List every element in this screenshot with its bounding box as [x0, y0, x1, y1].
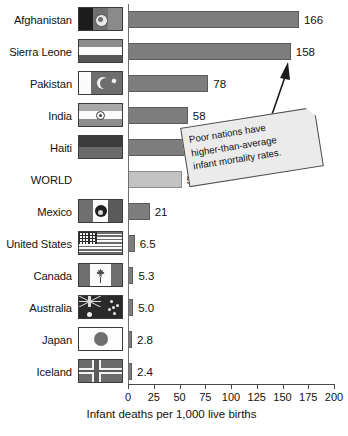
y-axis-line: [128, 4, 129, 384]
flag-cell: [78, 231, 125, 257]
bar-value-label: 2.4: [137, 356, 153, 388]
x-axis-title: Infant deaths per 1,000 live births: [0, 408, 343, 420]
flag-haiti-icon: [78, 135, 123, 159]
country-label: Japan: [0, 324, 72, 356]
bar-value-label: 5.0: [138, 292, 154, 324]
chart-row: Iceland2.4: [0, 356, 343, 388]
country-label: Pakistan: [0, 68, 72, 100]
chart-row: Sierra Leone158: [0, 36, 343, 68]
flag-afghanistan-icon: [78, 7, 123, 31]
country-label: Iceland: [0, 356, 72, 388]
country-label: United States: [0, 228, 72, 260]
bar: [128, 139, 187, 156]
country-label: Australia: [0, 292, 72, 324]
flag-cell: [78, 327, 125, 353]
chart-row: Australia5.0: [0, 292, 343, 324]
chart-row: Japan2.8: [0, 324, 343, 356]
flag-cell: [78, 263, 125, 289]
chart-row: United States6.5: [0, 228, 343, 260]
bar-value-label: 78: [213, 68, 226, 100]
country-label: Sierra Leone: [0, 36, 72, 68]
flag-mexico-icon: [78, 199, 123, 223]
country-label: Afghanistan: [0, 4, 72, 36]
flag-australia-icon: [78, 295, 123, 319]
chart-row: Afghanistan166: [0, 4, 343, 36]
country-label: India: [0, 100, 72, 132]
flag-canada-icon: [78, 263, 123, 287]
bar: [128, 203, 150, 220]
bar-value-label: 5.3: [138, 260, 154, 292]
flag-united-states-icon: [78, 231, 123, 255]
flag-iceland-icon: [78, 359, 123, 383]
country-label: Haiti: [0, 132, 72, 164]
flag-cell: [78, 199, 125, 225]
chart-row: Mexico21: [0, 196, 343, 228]
country-label: Mexico: [0, 196, 72, 228]
bar: [128, 11, 299, 28]
flag-cell: [78, 359, 125, 385]
bar: [128, 235, 135, 252]
bar-value-label: 6.5: [140, 228, 156, 260]
flag-cell: [78, 71, 125, 97]
flag-cell: [78, 295, 125, 321]
chart-row: Canada5.3: [0, 260, 343, 292]
flag-sierra-leone-icon: [78, 39, 123, 63]
bar-value-label: 166: [304, 4, 323, 36]
bar-value-label: 21: [155, 196, 168, 228]
country-label: Canada: [0, 260, 72, 292]
flag-japan-icon: [78, 327, 123, 351]
flag-pakistan-icon: [78, 71, 123, 95]
bar: [128, 75, 208, 92]
flag-india-icon: [78, 103, 123, 127]
bar-value-label: 2.8: [137, 324, 153, 356]
chart-row: Pakistan78: [0, 68, 343, 100]
country-label: WORLD: [0, 164, 72, 196]
x-axis-tick-label: 200: [314, 391, 348, 403]
bar: [128, 107, 188, 124]
bar-value-label: 158: [296, 36, 315, 68]
flag-cell: [78, 135, 125, 161]
bar: [128, 171, 182, 188]
flag-cell: [78, 7, 125, 33]
flag-cell: [78, 39, 125, 65]
flag-cell: [78, 103, 125, 129]
bar: [128, 43, 291, 60]
